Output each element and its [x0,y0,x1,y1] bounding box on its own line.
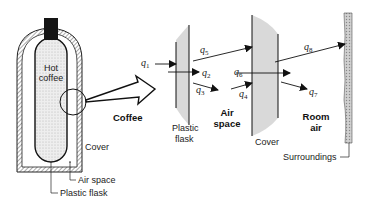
cover-wall-label: Cover [255,137,279,147]
heat-flow-labels: q1 q2 q3 q4 q5 q6 q7 q8 [141,41,318,101]
room-air-label-line1: Room [303,111,330,122]
plastic-flask-wall-label-line2: flask [175,134,194,144]
q8-label: q8 [304,41,313,54]
air-space-label: Air space [78,175,116,185]
plastic-flask [35,38,67,162]
hot-coffee-label-line2: coffee [39,73,63,83]
coffee-label: Coffee [113,112,143,123]
zoom-arrow: Coffee [86,76,155,123]
thermal-resistance-diagram: Hot coffee Cover Air space Plastic flask… [0,0,365,207]
air-space-region-label-line2: space [214,118,241,129]
q6-label: q6 [234,66,243,79]
surroundings-label: Surroundings [283,152,337,162]
plastic-flask-wall: Plastic flask [172,25,199,144]
q2-label: q2 [202,67,211,80]
q5-label: q5 [200,44,209,57]
thermos-bottle: Hot coffee Cover Air space Plastic flask [17,18,116,198]
flask-cap [44,18,58,40]
q1-label: q1 [141,57,150,70]
air-space-region-label-line1: Air [220,107,234,118]
cover-label: Cover [85,142,109,152]
plastic-flask-wall-label-line1: Plastic [172,123,199,133]
hot-coffee-label-line1: Hot [44,63,59,73]
room-air-label-line2: air [310,122,322,133]
cover-wall: Cover [252,15,279,147]
surroundings-wall: Surroundings [283,13,352,162]
q7-label: q7 [309,86,318,99]
q4-label: q4 [239,88,248,101]
q7-arrow [281,82,307,89]
plastic-flask-label: Plastic flask [60,188,108,198]
